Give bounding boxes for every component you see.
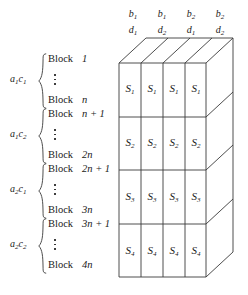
cell-label-r0-c3: S1 xyxy=(183,82,209,96)
cell-label-r2-c3: S3 xyxy=(183,190,209,204)
cell-label-r1-c3: S2 xyxy=(183,136,209,150)
box-right-face xyxy=(206,38,233,277)
block-design-figure: b1 d1 b1 d2 b2 d1 b2 d2 a1c1 Block1 Bloc… xyxy=(0,0,248,295)
cell-label-r3-c3: S4 xyxy=(183,244,209,258)
box-top-face xyxy=(119,38,233,63)
